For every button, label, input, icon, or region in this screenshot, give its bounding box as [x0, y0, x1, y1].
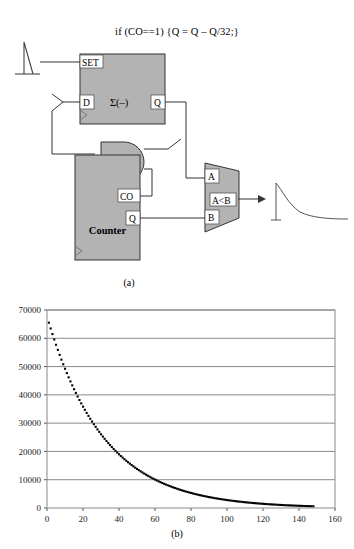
data-point — [237, 500, 239, 502]
data-point — [145, 474, 147, 476]
chart-y-tick-labels: 010000200003000040000500006000070000 — [19, 305, 42, 513]
data-point — [246, 501, 248, 503]
register-pin-set: SET — [82, 58, 99, 68]
counter-block[interactable]: CO Q Counter — [75, 155, 140, 260]
data-point — [179, 489, 181, 491]
data-point — [212, 497, 214, 499]
data-point — [143, 473, 145, 475]
data-point — [255, 502, 257, 504]
data-point — [127, 461, 129, 463]
data-point — [222, 498, 224, 500]
register-body-label: Σ(–) — [110, 97, 129, 109]
data-point — [118, 453, 120, 455]
data-point — [100, 433, 102, 435]
data-point — [57, 349, 59, 351]
data-point — [116, 452, 118, 454]
data-point — [78, 399, 80, 401]
data-point — [150, 477, 152, 479]
data-point — [113, 448, 115, 450]
data-point — [197, 494, 199, 496]
data-point — [111, 446, 113, 448]
panel-a-caption: (a) — [0, 277, 306, 288]
data-point — [122, 457, 124, 459]
data-point — [231, 500, 233, 502]
data-point — [293, 505, 295, 507]
data-point — [195, 493, 197, 495]
data-point — [284, 504, 286, 506]
data-point — [291, 504, 293, 506]
data-point — [269, 503, 271, 505]
comparator-output-arrow — [238, 195, 266, 203]
data-point — [87, 415, 89, 417]
data-point — [168, 485, 170, 487]
data-point — [176, 488, 178, 490]
x-tick-label: 20 — [79, 514, 89, 524]
y-tick-label: 10000 — [19, 475, 42, 485]
data-point — [152, 478, 154, 480]
data-point — [59, 354, 61, 356]
data-point — [50, 327, 52, 329]
data-point — [253, 502, 255, 504]
data-point — [95, 426, 97, 428]
comparator-block[interactable]: A B A<B — [205, 163, 239, 232]
x-tick-label: 100 — [220, 514, 234, 524]
y-tick-label: 40000 — [19, 390, 42, 400]
data-point — [192, 492, 194, 494]
data-point — [163, 483, 165, 485]
data-point — [204, 495, 206, 497]
data-point — [289, 504, 291, 506]
data-point — [53, 338, 55, 340]
data-point — [267, 503, 269, 505]
counter-pin-co: CO — [120, 192, 133, 202]
data-point — [257, 502, 259, 504]
y-tick-label: 0 — [37, 503, 42, 513]
data-point — [239, 501, 241, 503]
data-point — [221, 498, 223, 500]
data-point — [134, 467, 136, 469]
wire-register-q-to-comparator-a — [165, 102, 205, 178]
data-point — [165, 483, 167, 485]
data-point — [154, 479, 156, 481]
register-pin-q: Q — [154, 98, 161, 108]
data-point — [120, 455, 122, 457]
x-tick-label: 80 — [187, 514, 197, 524]
data-point — [271, 503, 273, 505]
data-point — [194, 493, 196, 495]
data-point — [203, 495, 205, 497]
output-decay-waveform — [271, 183, 348, 220]
data-point — [147, 475, 149, 477]
data-point — [107, 442, 109, 444]
data-point — [213, 497, 215, 499]
data-point — [230, 499, 232, 501]
data-point — [309, 505, 311, 507]
panel-b-caption: (b) — [0, 528, 354, 539]
data-point — [296, 505, 298, 507]
data-point — [96, 428, 98, 430]
data-point — [260, 503, 262, 505]
data-point — [159, 481, 161, 483]
data-point — [183, 490, 185, 492]
y-tick-label: 60000 — [19, 333, 42, 343]
data-point — [285, 504, 287, 506]
data-point — [77, 395, 79, 397]
x-tick-label: 140 — [292, 514, 306, 524]
data-point — [298, 505, 300, 507]
data-point — [228, 499, 230, 501]
data-point — [84, 409, 86, 411]
comparator-pin-a: A — [208, 172, 215, 182]
figure-container: if (CO==1) {Q = Q – Q/32;} SET D — [0, 0, 354, 549]
data-point — [80, 402, 82, 404]
data-point — [105, 440, 107, 442]
data-point — [132, 465, 134, 467]
data-point — [280, 504, 282, 506]
data-point — [68, 376, 70, 378]
accumulator-register[interactable]: SET D Q Σ(–) — [80, 54, 165, 124]
data-point — [66, 372, 68, 374]
data-point — [302, 505, 304, 507]
chart-gridlines — [44, 310, 335, 508]
x-tick-label: 60 — [151, 514, 161, 524]
data-point — [312, 505, 314, 507]
data-point — [199, 494, 201, 496]
y-tick-label: 30000 — [19, 418, 42, 428]
data-point — [249, 502, 251, 504]
